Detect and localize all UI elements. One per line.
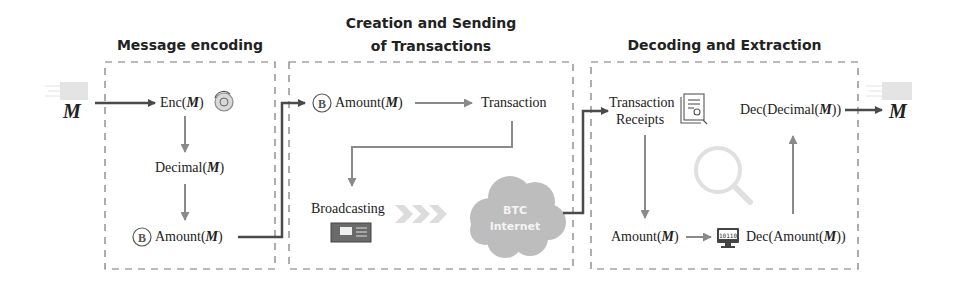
node-transaction: Transaction xyxy=(481,95,547,111)
diagram-root: B B 10110 xyxy=(0,0,958,294)
node-amount-m-stage2: Amount(M) xyxy=(335,95,403,111)
node-amount-m-stage3: Amount(M) xyxy=(611,229,679,245)
stage-title-decoding: Decoding and Extraction xyxy=(591,36,858,54)
svg-text:B: B xyxy=(318,97,326,111)
node-enc-m: Enc(M) xyxy=(160,95,204,111)
input-message-symbol: M xyxy=(63,101,81,121)
node-dec-amount-m: Dec(Amount(M)) xyxy=(746,229,846,245)
bitcoin-coin-icon: B xyxy=(133,228,151,246)
node-amount-m-stage1: Amount(M) xyxy=(155,229,223,245)
arrow-cloud-to-receipts xyxy=(563,111,608,213)
input-message-icon xyxy=(45,82,88,100)
stage-title-transactions-line1: Creation and Sending xyxy=(289,14,573,32)
chevron-arrows-icon xyxy=(395,205,447,223)
bitcoin-coin-icon: B xyxy=(313,94,331,112)
network-switch-icon xyxy=(331,223,371,242)
output-message-symbol: M xyxy=(889,101,907,121)
stage-title-encoding: Message encoding xyxy=(105,36,275,54)
node-transaction-receipts-line1: Transaction xyxy=(609,95,675,111)
arrow-transaction-to-broadcasting xyxy=(352,121,512,186)
svg-text:B: B xyxy=(138,231,146,245)
binary-monitor-icon: 10110 xyxy=(717,228,739,248)
cloud-label-line1: BTC xyxy=(485,203,545,218)
node-broadcasting: Broadcasting xyxy=(311,201,385,217)
magnifier-icon xyxy=(696,148,750,202)
arrow-amount-to-stage2 xyxy=(238,103,305,237)
cloud-label-line2: Internet xyxy=(485,219,545,234)
svg-text:10110: 10110 xyxy=(719,232,737,239)
encryption-icon xyxy=(215,91,233,111)
node-dec-decimal-m: Dec(Decimal(M)) xyxy=(740,102,841,118)
stage-title-transactions-line2: of Transactions xyxy=(289,37,573,55)
output-message-icon xyxy=(866,82,912,100)
receipt-document-icon xyxy=(681,94,707,124)
node-transaction-receipts-line2: Receipts xyxy=(616,112,664,128)
node-decimal-m: Decimal(M) xyxy=(155,160,224,176)
